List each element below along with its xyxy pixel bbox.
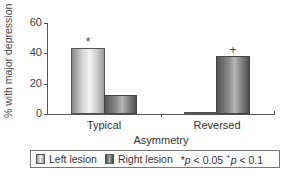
category-label-typical: Typical [64, 119, 144, 131]
bar-reversed-left-lesion [184, 112, 217, 114]
legend-label: Left lesion [49, 153, 97, 165]
threshold-text: < 0.05 [191, 154, 226, 166]
significance-star: * [78, 35, 98, 49]
x-tick-mark [161, 114, 162, 117]
y-tick-mark [44, 53, 47, 54]
bar-typical-left-lesion [71, 48, 105, 114]
y-tick-0: 0 [22, 107, 42, 119]
y-tick-20: 20 [22, 77, 42, 89]
legend-significance-note: *p < 0.05 +p < 0.1 [181, 152, 263, 166]
threshold-text: < 0.1 [237, 154, 264, 166]
y-axis-label: % with major depression [2, 4, 14, 118]
legend: Left lesion Right lesion *p < 0.05 +p < … [30, 150, 280, 168]
legend-item-right-lesion: Right lesion [105, 153, 173, 165]
left-lesion-swatch-icon [36, 154, 45, 164]
legend-label: Right lesion [118, 153, 173, 165]
y-tick-40: 40 [22, 46, 42, 58]
category-label-reversed: Reversed [177, 119, 257, 131]
x-axis-label: Asymmetry [101, 134, 221, 146]
y-axis [47, 23, 48, 115]
y-tick-mark [44, 23, 47, 24]
bar-reversed-right-lesion [216, 56, 250, 114]
significance-plus: + [223, 43, 243, 57]
legend-item-left-lesion: Left lesion [36, 153, 97, 165]
x-tick-mark [274, 111, 275, 115]
y-tick-mark [44, 84, 47, 85]
y-tick-60: 60 [22, 16, 42, 28]
bar-typical-right-lesion [104, 95, 137, 114]
right-lesion-swatch-icon [105, 154, 114, 164]
